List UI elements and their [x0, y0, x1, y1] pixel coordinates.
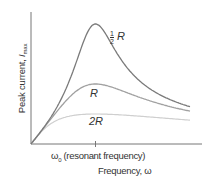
x-axis-label: Frequency, ω — [98, 165, 151, 176]
curve-2r — [31, 114, 190, 144]
curve-label-r: R — [90, 87, 98, 99]
resonant-frequency-label: ω0 (resonant frequency) — [51, 150, 145, 163]
y-axis-label: Peak current, Imax — [16, 28, 29, 128]
curve-label-half-r: 12 R — [110, 30, 125, 45]
curve-label-2r: 2R — [89, 115, 103, 127]
